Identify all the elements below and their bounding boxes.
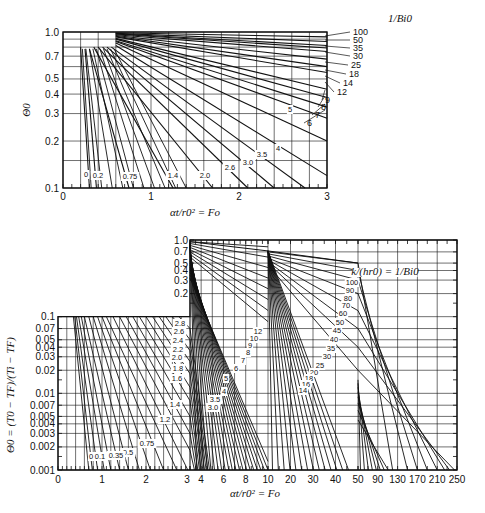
curve-upper — [190, 252, 268, 300]
curve-label: 2.6 — [225, 163, 235, 172]
y-tick-label: 0.5 — [45, 73, 59, 84]
x-tick-label: 90 — [372, 474, 384, 485]
curve-label: 0 — [84, 170, 88, 179]
curve-label: 0 — [89, 452, 93, 461]
y-tick-label: 0.007 — [30, 400, 55, 411]
y-tick-label: 1.0 — [174, 235, 188, 246]
curve-label: 0.75 — [123, 172, 138, 181]
legend-title: k/(hr0) = 1/Bi0 — [351, 265, 419, 278]
x-tick-label: 3 — [184, 474, 190, 485]
x-axis-label: αt/r0² = Fo — [170, 206, 221, 218]
x-tick-label: 50 — [352, 474, 364, 485]
leader-line — [325, 46, 350, 48]
y-tick-label: 0.2 — [45, 136, 59, 147]
curve-label: 2.6 — [174, 327, 184, 336]
x-tick-label: 0 — [60, 191, 66, 202]
curve-far — [358, 294, 427, 470]
x-tick-label: 1 — [99, 474, 105, 485]
curve-label: 3.0 — [243, 158, 253, 167]
legend-title: 1/Bi0 — [388, 12, 412, 24]
y-tick-label: 1.0 — [45, 27, 59, 38]
curve-right — [268, 251, 308, 470]
x-axis-label: αt/r0² = Fo — [230, 487, 281, 499]
y-tick-label: 0.1 — [41, 311, 55, 322]
y-tick-label: 0.02 — [36, 365, 56, 376]
curve-right — [268, 251, 349, 470]
x-tick-label: 8 — [243, 474, 249, 485]
x-tick-label: 30 — [307, 474, 319, 485]
curve-label: 1.2 — [160, 415, 170, 424]
curve-extra — [93, 49, 123, 188]
curve-label: 5 — [224, 374, 228, 383]
y-tick-label: 0.1 — [45, 183, 59, 194]
x-tick-label: 1 — [148, 191, 154, 202]
y-tick-label: 0.4 — [45, 89, 59, 100]
curve-label: 4 — [276, 144, 280, 153]
x-tick-label: 170 — [409, 474, 426, 485]
y-tick-label: 0.2 — [174, 288, 188, 299]
y-tick-label: 0.7 — [45, 51, 59, 62]
y-tick-label: 0.03 — [36, 351, 56, 362]
curve-label: 6 — [234, 364, 238, 373]
curve-upper — [190, 245, 268, 267]
curve-label: 5 — [288, 105, 292, 114]
curve-label: 7 — [241, 356, 245, 365]
y-tick-label: 0.001 — [30, 465, 55, 476]
leader-line — [325, 70, 346, 74]
y-tick-label: 0.01 — [36, 388, 56, 399]
curve-label: 1.6 — [172, 374, 182, 383]
curve-label: 1.8 — [173, 364, 183, 373]
curve-label: 8 — [246, 348, 250, 357]
y-tick-label: 0.003 — [30, 428, 55, 439]
x-tick-label: 10 — [262, 474, 274, 485]
curve-extra — [96, 49, 133, 188]
heisler-chart: 1.00.70.50.40.30.20.10123Θ0αt/r0² = Fo1/… — [0, 0, 485, 513]
curve-label: 2.0 — [172, 353, 182, 362]
curve-label: 4 — [222, 387, 226, 396]
curve-label: 30 — [323, 352, 331, 361]
x-tick-label: 20 — [285, 474, 297, 485]
curve-label: 1.4 — [168, 171, 178, 180]
x-tick-label: 210 — [429, 474, 446, 485]
curve-label: 3.0 — [208, 403, 218, 412]
curve-label: 45 — [333, 326, 341, 335]
curve-label: 6 — [307, 118, 312, 128]
curve-label: 2.0 — [200, 171, 210, 180]
curve-label: 1.4 — [170, 400, 180, 409]
top-chart: 1.00.70.50.40.30.20.10123Θ0αt/r0² = Fo1/… — [20, 12, 412, 218]
leader-line — [325, 52, 350, 56]
x-tick-label: 6 — [221, 474, 227, 485]
x-tick-label: 250 — [449, 474, 466, 485]
x-tick-label: 2 — [236, 191, 242, 202]
y-axis-label: Θ0 — [20, 103, 32, 117]
x-tick-label: 130 — [389, 474, 406, 485]
y-tick-label: 0.3 — [174, 275, 188, 286]
y-tick-label: 0.3 — [45, 108, 59, 119]
x-tick-label: 3 — [324, 191, 330, 202]
curve-label: 0.35 — [109, 451, 124, 460]
curve-far — [358, 263, 393, 470]
curve-label: 14 — [299, 386, 307, 395]
curve-label: 2.4 — [173, 336, 183, 345]
y-axis-label: Θ0 = (T0 − TF)/(Ti − TF) — [4, 337, 17, 453]
bottom-chart: 0.10.070.050.040.030.020.010.0070.0050.0… — [4, 235, 466, 500]
curve-label: 0.1 — [95, 452, 105, 461]
y-tick-label: 0.002 — [30, 441, 55, 452]
x-tick-label: 40 — [330, 474, 342, 485]
leader-line — [325, 32, 350, 36]
curve-extra — [100, 49, 144, 188]
y-tick-label: 0.7 — [174, 246, 188, 257]
curve-extra — [103, 49, 154, 188]
curve-label: 60 — [339, 309, 347, 318]
curve-label: 40 — [330, 335, 338, 344]
y-tick-label: 0.07 — [36, 323, 56, 334]
x-tick-label: 2 — [143, 474, 149, 485]
curve-label: 12 — [337, 87, 347, 97]
x-tick-label: 4 — [198, 474, 204, 485]
curve-label: 0.2 — [93, 171, 103, 180]
leader-line — [325, 62, 348, 65]
curve-label: 0.75 — [140, 439, 155, 448]
curve-label: 3.5 — [257, 150, 267, 159]
x-tick-label: 0 — [55, 474, 61, 485]
